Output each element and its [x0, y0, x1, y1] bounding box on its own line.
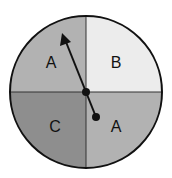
- section-label-top-left: A: [46, 54, 57, 71]
- section-bottom-right: [86, 92, 162, 168]
- section-label-bottom-right: A: [111, 118, 122, 135]
- section-label-top-right: B: [111, 54, 122, 71]
- section-top-right: [86, 16, 162, 92]
- section-bottom-left: [10, 92, 86, 168]
- section-label-bottom-left: C: [49, 118, 61, 135]
- spinner: A B C A: [10, 16, 162, 168]
- spinner-diagram: A B C A: [0, 0, 172, 178]
